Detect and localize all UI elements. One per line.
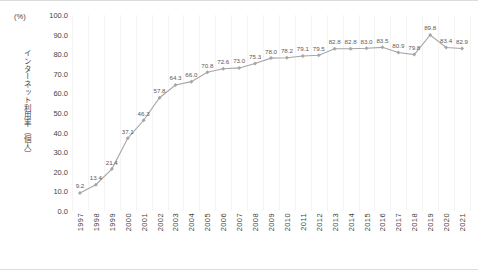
data-point-label: 64.3 xyxy=(169,74,181,81)
x-axis-tick-label: 2021 xyxy=(458,213,467,231)
data-point-label: 82.8 xyxy=(345,38,357,45)
data-point-label: 83.0 xyxy=(360,38,372,45)
x-axis-tick-label: 2013 xyxy=(330,213,339,231)
data-point-marker xyxy=(365,46,369,50)
y-axis-title: インターネット利用率（個人） xyxy=(18,49,32,158)
x-axis-tick-label: 1997 xyxy=(75,213,84,231)
data-point-label: 75.3 xyxy=(249,53,261,60)
data-point-label: 79.5 xyxy=(313,45,325,52)
y-axis-tick-label: 30.0 xyxy=(34,148,68,157)
data-point-label: 79.8 xyxy=(408,44,420,51)
data-point-label: 72.6 xyxy=(217,58,229,65)
x-axis-tick-label: 2002 xyxy=(155,213,164,231)
x-axis-tick-label: 2009 xyxy=(267,213,276,231)
y-axis-tick-label: 100.0 xyxy=(34,11,68,20)
data-point-marker xyxy=(317,53,321,57)
x-axis-tick-label: 2018 xyxy=(410,213,419,231)
y-axis-tick-label: 80.0 xyxy=(34,50,68,59)
data-point-label: 89.8 xyxy=(424,24,436,31)
data-point-label: 82.8 xyxy=(329,38,341,45)
y-axis-tick-label: 70.0 xyxy=(34,69,68,78)
data-point-marker xyxy=(349,47,353,51)
data-point-marker xyxy=(380,45,384,49)
data-point-label: 13.4 xyxy=(90,174,102,181)
x-axis-tick-label: 1999 xyxy=(107,213,116,231)
x-axis-tick-label: 2005 xyxy=(203,213,212,231)
data-point-label: 57.8 xyxy=(154,87,166,94)
y-axis-tick-label: 10.0 xyxy=(34,187,68,196)
y-axis-tick-labels: 100.090.080.070.060.050.040.030.020.010.… xyxy=(34,1,68,270)
data-point-marker xyxy=(253,61,257,65)
data-point-label: 70.8 xyxy=(201,62,213,69)
x-axis-tick-label: 2019 xyxy=(426,213,435,231)
data-point-marker xyxy=(285,56,289,60)
data-point-marker xyxy=(460,47,464,51)
vertical-gridline xyxy=(470,15,471,211)
data-point-marker xyxy=(237,66,241,70)
x-axis-tick-label: 2006 xyxy=(219,213,228,231)
x-axis-tick-label: 2011 xyxy=(298,213,307,231)
x-axis-tick-label: 2014 xyxy=(346,213,355,231)
data-point-label: 82.9 xyxy=(456,38,468,45)
data-point-label: 21.4 xyxy=(106,159,118,166)
x-axis-tick-label: 2012 xyxy=(314,213,323,231)
data-point-label: 46.3 xyxy=(138,110,150,117)
x-axis-tick-label: 2000 xyxy=(123,213,132,231)
y-axis-tick-label: 20.0 xyxy=(34,167,68,176)
y-axis-tick-label: 50.0 xyxy=(34,109,68,118)
y-axis-tick-label: 40.0 xyxy=(34,128,68,137)
x-axis-tick-label: 2004 xyxy=(187,213,196,231)
y-axis-tick-label: 0.0 xyxy=(34,207,68,216)
data-point-marker xyxy=(301,54,305,58)
y-axis-tick-label: 60.0 xyxy=(34,89,68,98)
data-point-label: 83.4 xyxy=(440,37,452,44)
data-point-marker xyxy=(221,67,225,71)
plot-area: 9.213.421.437.146.357.864.366.070.872.67… xyxy=(72,15,470,211)
x-axis-tick-label: 1998 xyxy=(91,213,100,231)
data-point-marker xyxy=(78,191,82,195)
data-point-label: 80.9 xyxy=(392,42,404,49)
x-axis-tick-label: 2007 xyxy=(235,213,244,231)
x-axis-tick-label: 2003 xyxy=(171,213,180,231)
data-point-marker xyxy=(396,50,400,54)
x-axis-tick-label: 2001 xyxy=(139,213,148,231)
x-axis-tick-label: 2008 xyxy=(251,213,260,231)
data-point-label: 37.1 xyxy=(122,128,134,135)
x-axis-tick-label: 2015 xyxy=(362,213,371,231)
x-axis-tick-label: 2010 xyxy=(282,213,291,231)
data-point-marker xyxy=(333,47,337,51)
data-point-marker xyxy=(269,56,273,60)
data-point-label: 83.5 xyxy=(376,37,388,44)
y-axis-unit-label: (%) xyxy=(14,12,26,21)
data-point-label: 78.2 xyxy=(281,47,293,54)
x-axis-tick-label: 2016 xyxy=(378,213,387,231)
data-point-label: 73.0 xyxy=(233,57,245,64)
x-axis-tick-label: 2020 xyxy=(442,213,451,231)
data-point-label: 78.0 xyxy=(265,48,277,55)
x-axis-tick-label: 2017 xyxy=(394,213,403,231)
data-point-label: 79.1 xyxy=(297,45,309,52)
chart-figure: (%) インターネット利用率（個人） 100.090.080.070.060.0… xyxy=(0,0,478,270)
x-axis-tick-labels: 1997199819992000200120022003200420052006… xyxy=(72,213,470,270)
data-point-label: 9.2 xyxy=(76,182,85,189)
data-point-label: 66.0 xyxy=(185,71,197,78)
y-axis-tick-label: 90.0 xyxy=(34,30,68,39)
